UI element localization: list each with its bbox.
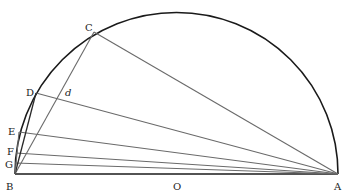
chord-CA — [94, 32, 338, 174]
semicircle-arc — [15, 12, 338, 174]
label-F: F — [7, 146, 14, 157]
label-C: C — [85, 22, 93, 33]
label-d: d — [65, 87, 71, 98]
label-A: A — [333, 181, 342, 192]
chord-DA — [36, 93, 338, 174]
label-B: B — [6, 181, 13, 192]
label-O: O — [173, 181, 181, 192]
chord-GA — [15, 163, 338, 174]
chord-BC — [15, 32, 94, 174]
chord-EA — [19, 132, 338, 174]
label-D: D — [26, 87, 34, 98]
chord-FA — [16, 153, 338, 174]
label-G: G — [5, 159, 13, 170]
label-E: E — [8, 126, 15, 137]
semicircle-diagram: C D d E F G B O A — [0, 0, 348, 194]
